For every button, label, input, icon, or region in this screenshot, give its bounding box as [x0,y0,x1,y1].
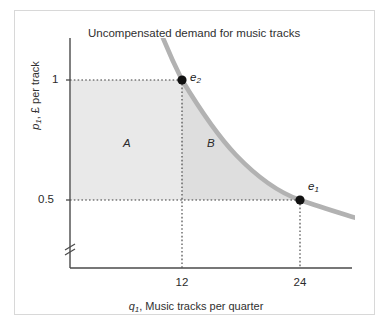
plot-canvas [0,0,390,332]
point-e2 [177,75,186,84]
point-e1-label: e1 [308,181,319,193]
x-axis-subscript: 1 [135,305,139,314]
y-tick-label-1: 1 [52,74,58,86]
point-e2-subscript: 2 [196,76,200,85]
x-axis-title: q1, Music tracks per quarter [129,301,264,312]
y-axis-units: , £ per track [29,61,41,119]
chart-title: Uncompensated demand for music tracks [88,28,300,40]
x-tick-label-12: 12 [176,277,189,289]
point-e1-subscript: 1 [314,185,318,194]
y-axis-title: p1, £ per track [30,36,41,156]
y-axis-var: p [29,124,41,130]
y-tick-label-05: 0.5 [38,194,54,206]
point-e1 [295,195,304,204]
y-axis-subscript: 1 [34,119,43,123]
x-tick-label-24: 24 [294,277,307,289]
region-b-label: B [207,138,215,150]
point-e2-label: e2 [190,72,201,84]
x-axis-units: , Music tracks per quarter [139,300,263,312]
region-a-label: A [123,138,131,150]
demand-curve-figure: Uncompensated demand for music tracks p1… [0,0,390,332]
region-b-shading [182,80,300,200]
